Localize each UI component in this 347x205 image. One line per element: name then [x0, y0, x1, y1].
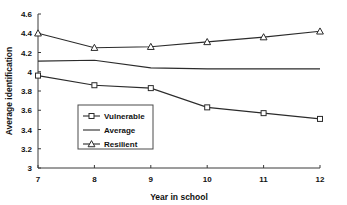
y-tick-label: 3.4: [21, 126, 33, 135]
y-tick-label: 4: [28, 68, 33, 77]
x-tick-label: 9: [149, 175, 154, 184]
x-axis-tick-labels: 789101112: [36, 175, 325, 184]
chart-figure: 33.23.43.63.844.24.44.6 789101112 Year i…: [0, 0, 347, 205]
data-point-marker-square: [205, 105, 210, 110]
y-tick-label: 3.8: [21, 87, 33, 96]
series-resilient: [35, 28, 324, 50]
y-tick-label: 4.6: [21, 10, 33, 19]
series-line: [38, 60, 320, 69]
data-point-marker-square: [261, 111, 266, 116]
y-axis-title: Average identification: [4, 47, 14, 135]
line-chart: 33.23.43.63.844.24.44.6 789101112 Year i…: [0, 0, 347, 205]
y-axis-tick-labels: 33.23.43.63.844.24.44.6: [21, 10, 33, 173]
y-tick-label: 4.4: [21, 29, 33, 38]
legend-label: Average: [104, 126, 136, 135]
data-point-marker-triangle: [317, 28, 324, 34]
y-tick-label: 3.2: [21, 145, 33, 154]
y-tick-label: 3: [28, 164, 33, 173]
legend-label: Vulnerable: [104, 112, 145, 121]
x-tick-label: 10: [203, 175, 212, 184]
x-tick-label: 8: [92, 175, 97, 184]
data-point-marker-square: [92, 83, 97, 88]
series-average: [38, 60, 320, 69]
x-tick-label: 11: [259, 175, 268, 184]
x-tick-label: 7: [36, 175, 41, 184]
series-line: [38, 31, 320, 47]
x-axis-title: Year in school: [150, 192, 208, 202]
x-tick-label: 12: [316, 175, 325, 184]
y-tick-label: 3.6: [21, 106, 33, 115]
data-point-marker-square: [318, 116, 323, 121]
chart-legend: VulnerableAverageResilient: [78, 105, 153, 149]
data-point-marker-square: [89, 114, 94, 119]
data-point-marker-square: [36, 73, 41, 78]
data-point-marker-square: [148, 86, 153, 91]
y-tick-label: 4.2: [21, 49, 33, 58]
legend-label: Resilient: [104, 140, 138, 149]
